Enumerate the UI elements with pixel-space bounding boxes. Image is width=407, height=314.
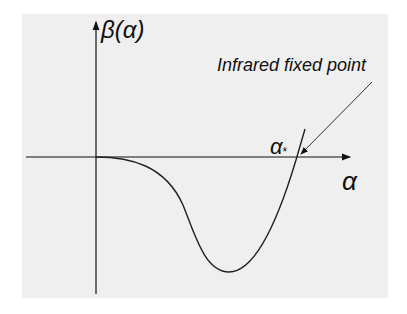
fixed-point-symbol: α [270,134,283,159]
y-axis-label: β(α) [101,16,144,44]
x-axis-label: α [342,166,357,197]
fixed-point-annotation: Infrared fixed point [217,55,366,76]
fixed-point-subscript: * [283,145,288,159]
annotation-arrow [301,82,372,154]
beta-function-plot [0,0,407,314]
fixed-point-label: α* [270,134,287,160]
